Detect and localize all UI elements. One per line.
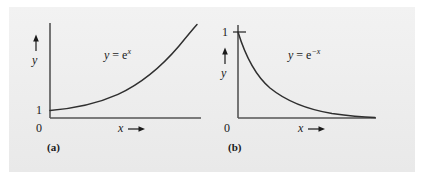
y-axis-label-b: y [221,67,226,79]
equation-equals-b: = [293,48,306,62]
equation-label-a: y=ex [104,48,131,61]
figure-root: y 1 0 x y=ex (a) [0,0,425,185]
origin-label-b: 0 [224,122,230,134]
y-top-tick-label-b: 1 [222,26,228,38]
plot-panel-a: y 1 0 x y=ex (a) [22,0,222,165]
y-axis-arrow-b [222,48,228,65]
equation-exponent-a: x [127,47,131,56]
equation-exponent-b: −x [311,47,320,56]
curve-exp-decay [238,32,375,118]
equation-label-b: y=e−x [288,48,320,61]
equation-equals-a: = [109,48,122,62]
plot-b-svg [212,0,412,165]
curve-exp-growth [50,25,197,111]
y-intercept-label-a: 1 [36,104,42,116]
x-axis-label-b: x [298,122,303,134]
panel-caption-a: (a) [47,142,60,153]
origin-label-a: 0 [36,122,42,134]
x-axis-arrow-b [308,124,326,134]
panel-caption-b: (b) [228,142,241,153]
x-axis-arrow-a [128,124,146,134]
x-axis-label-a: x [118,122,123,134]
y-axis-label-a: y [32,54,37,66]
y-axis-arrow-a [33,35,39,52]
plot-panel-b: 1 y 0 x y=e−x (b) [212,0,412,165]
